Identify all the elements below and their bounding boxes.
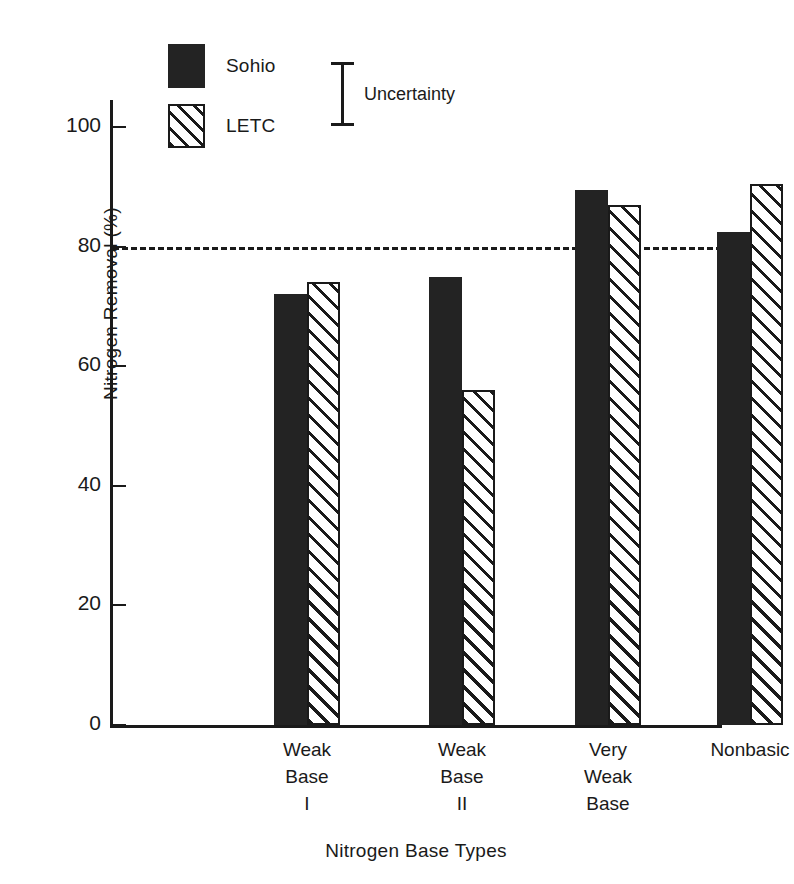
x-category-label-4: Nonbasic	[680, 736, 794, 763]
bar-letc-group-2	[462, 390, 495, 725]
y-tick-100: 100	[113, 126, 126, 128]
y-tick-label-0: 0	[89, 711, 101, 735]
plot-area: 020406080100 Weak Base IWeak Base IIVery…	[110, 100, 722, 728]
x-category-label-3: Very Weak Base	[538, 736, 678, 817]
bar-letc-group-1	[307, 282, 340, 725]
y-tick-0: 0	[113, 724, 126, 726]
y-tick-40: 40	[113, 485, 126, 487]
bar-sohio-group-3	[575, 190, 608, 725]
bar-letc-group-4	[750, 184, 783, 725]
y-axis-title: Nitrogen Removal (%)	[100, 207, 122, 400]
x-axis-title: Nitrogen Base Types	[110, 840, 722, 862]
y-axis-line	[110, 100, 113, 728]
bar-letc-group-3	[608, 205, 641, 725]
y-tick-label-100: 100	[66, 113, 101, 137]
y-tick-label-40: 40	[78, 472, 101, 496]
x-category-label-1: Weak Base I	[237, 736, 377, 817]
x-category-label-2: Weak Base II	[392, 736, 532, 817]
legend-label-sohio: Sohio	[226, 55, 276, 77]
y-tick-label-20: 20	[78, 591, 101, 615]
y-tick-20: 20	[113, 604, 126, 606]
y-tick-label-80: 80	[78, 233, 101, 257]
legend-item-sohio: Sohio	[168, 44, 276, 88]
bar-sohio-group-4	[717, 232, 750, 725]
bar-sohio-group-2	[429, 277, 462, 726]
bar-sohio-group-1	[274, 294, 307, 725]
legend-swatch-sohio-icon	[168, 44, 205, 88]
y-tick-label-60: 60	[78, 352, 101, 376]
x-axis-line	[110, 725, 722, 728]
